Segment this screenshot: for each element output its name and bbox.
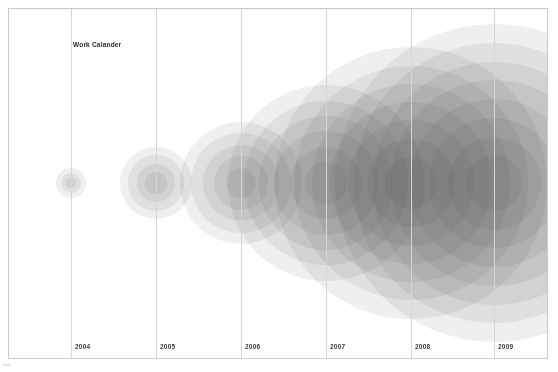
chart-frame: 200420052006200720082009 Work Calander [8, 8, 548, 359]
chart-application: 200420052006200720082009 Work Calander w… [0, 0, 558, 372]
page-title: Work Calander [73, 41, 121, 48]
x-axis-label-2004: 2004 [75, 343, 90, 350]
x-axis-label-2008: 2008 [415, 343, 430, 350]
bubble-2005-ring-4 [145, 172, 166, 193]
x-axis-label-2005: 2005 [160, 343, 175, 350]
bubble-2006-ring-5 [226, 168, 256, 198]
x-axis-label-2007: 2007 [330, 343, 345, 350]
x-axis-label-2009: 2009 [498, 343, 513, 350]
x-axis-label-2006: 2006 [245, 343, 260, 350]
bubble-2007-ring-6 [305, 162, 347, 204]
footer-note: www. [3, 363, 12, 367]
plot-surface: 200420052006200720082009 [9, 9, 547, 358]
